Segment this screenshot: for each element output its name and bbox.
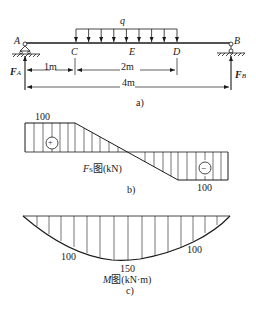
shear-title-rest: 图(kN) <box>93 163 122 174</box>
shear-max-positive: 100 <box>35 112 50 122</box>
shear-diagram <box>25 123 228 180</box>
reaction-fb-main: F <box>235 69 242 80</box>
moment-value-mid: 150 <box>120 264 135 274</box>
point-label-e: E <box>129 47 135 57</box>
caption-c: c) <box>126 286 134 296</box>
reaction-label-fb: FB <box>235 70 246 81</box>
point-label-d: D <box>173 47 180 57</box>
negative-sign: − <box>201 163 206 173</box>
reaction-fb-sub: B <box>242 72 246 80</box>
load-label-q: q <box>120 16 125 26</box>
moment-value-right: 100 <box>187 245 202 255</box>
positive-sign: + <box>48 138 53 148</box>
roller-support-icon <box>217 42 245 56</box>
moment-title-rest: 图(kN·m) <box>111 274 151 285</box>
moment-diagram-title: M图(kN·m) <box>103 275 151 285</box>
distributed-load <box>76 29 177 42</box>
shear-max-negative: 100 <box>197 183 212 193</box>
point-label-b: B <box>234 36 240 46</box>
dimension-ab: 4m <box>122 78 135 88</box>
dimension-ac: 1m <box>44 62 57 72</box>
reaction-fa-sub: A <box>17 69 21 77</box>
caption-b: b) <box>127 185 135 195</box>
reaction-label-fa: FA <box>10 67 21 78</box>
point-label-a: A <box>14 36 20 46</box>
point-label-c: C <box>71 47 78 57</box>
moment-value-left: 100 <box>61 252 76 262</box>
shear-diagram-title: FS图(kN) <box>83 164 122 175</box>
caption-a: a) <box>136 98 144 108</box>
dimension-cd: 2m <box>121 62 134 72</box>
reaction-fa-main: F <box>10 66 17 77</box>
